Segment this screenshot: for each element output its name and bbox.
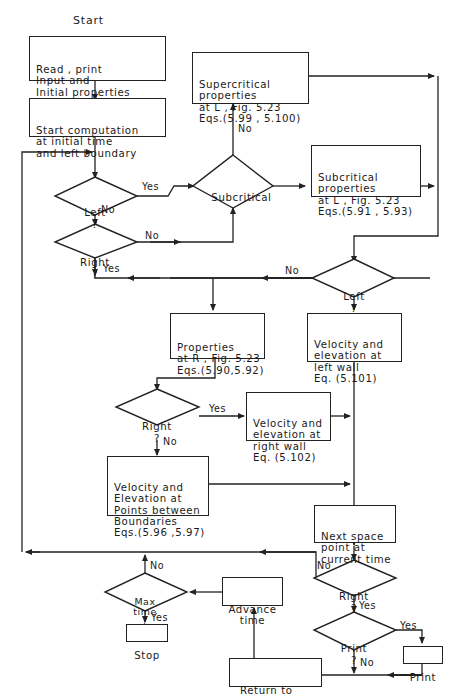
start-computation-box: Start computationat initial timeand left… xyxy=(29,98,166,137)
edge-label-max-no: No xyxy=(150,560,164,571)
advance-time-box: Advancetime xyxy=(222,577,283,606)
edge-label-right3-yes: Yes xyxy=(359,600,376,611)
decision-subcritical-label: Subcritical xyxy=(196,180,270,215)
edge-label-max-yes: Yes xyxy=(151,612,168,623)
edge-label-right1-no: No xyxy=(145,230,159,241)
read-input-box: Read , printInput andInitial properties xyxy=(29,36,166,81)
subcritical-properties-box: Subcriticalpropertiesat L , Fig. 5.23Eqs… xyxy=(311,145,421,197)
edge-label-left1-no: No xyxy=(101,204,115,215)
return-left-boundary-box: Return toleft boundary xyxy=(229,658,322,687)
velocity-right-wall-box: Velocity andelevation atright wallEq. (5… xyxy=(246,392,331,441)
decision-print-label: Print? xyxy=(334,620,374,689)
decision-right-2-label: Right? xyxy=(137,398,177,467)
edge-label-right1-yes: Yes xyxy=(103,263,120,274)
print-box: Print xyxy=(403,646,443,664)
start-label: Start xyxy=(73,14,104,27)
edge-label-left1-yes: Yes xyxy=(142,181,159,192)
edge-label-right3-no: No xyxy=(317,560,331,571)
decision-left-2-label: Left? xyxy=(334,268,374,337)
supercritical-properties-box: Supercriticalpropertiesat L , Fig. 5.23E… xyxy=(192,52,309,104)
properties-at-r-box: Propertiesat R , Fig. 5.23Eqs.(5.90,5.92… xyxy=(170,313,265,359)
edge-label-sub-no: No xyxy=(238,123,252,134)
edge-label-print-no: No xyxy=(360,657,374,668)
edge-label-right2-yes: Yes xyxy=(209,403,226,414)
edge-label-print-yes: Yes xyxy=(400,620,417,631)
edge-label-right2-no: No xyxy=(163,436,177,447)
edge-label-left2-no: No xyxy=(285,265,299,276)
flowchart-canvas: Start Read , printInput andInitial prope… xyxy=(0,0,461,696)
next-space-point-box: Next spacepoint atcurrent time xyxy=(314,505,396,543)
